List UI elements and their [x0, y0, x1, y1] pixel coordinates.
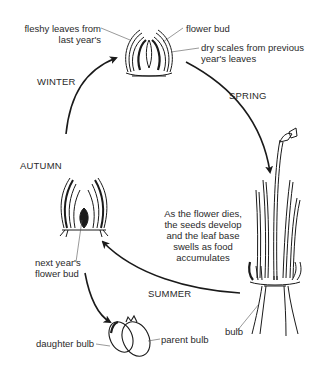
- parent-bulb-shape: [117, 317, 156, 361]
- daughter-bulb-shape: [104, 318, 137, 356]
- arrow-winter: [66, 58, 116, 134]
- label-fleshy-leaves-line1: fleshy leaves from: [16, 23, 101, 34]
- label-fleshy-leaves-line2: last year's: [16, 34, 101, 45]
- season-summer: SUMMER: [148, 288, 191, 299]
- next-bud-line1: next year's: [35, 257, 81, 268]
- summer-note-line2: the seeds develop: [160, 219, 246, 230]
- season-spring: SPRING: [229, 90, 267, 101]
- summer-note-line5: accumulates: [160, 252, 246, 263]
- flowering-plant-illustration: [249, 128, 301, 336]
- label-daughter-bulb: daughter bulb: [36, 338, 94, 349]
- summer-note-line1: As the flower dies,: [160, 208, 246, 219]
- label-fleshy-leaves: fleshy leaves from last year's: [16, 23, 101, 45]
- summer-note-line4: swells as food: [160, 241, 246, 252]
- arrow-autumn: [85, 273, 110, 322]
- season-autumn: AUTUMN: [20, 160, 62, 171]
- label-bulb: bulb: [225, 326, 243, 337]
- dividing-bulbs-illustration: [104, 316, 155, 361]
- summer-note-line3: and the leaf base: [160, 230, 246, 241]
- label-next-years-bud: next year's flower bud: [35, 257, 81, 279]
- autumn-bulb-illustration: [60, 178, 108, 237]
- next-bud-line2: flower bud: [35, 268, 81, 279]
- arrow-spring: [186, 62, 270, 172]
- label-summer-note: As the flower dies, the seeds develop an…: [160, 208, 246, 263]
- label-dry-scales: dry scales from previous year's leaves: [201, 42, 304, 64]
- season-winter: WINTER: [37, 76, 76, 87]
- label-dry-scales-line1: dry scales from previous: [201, 42, 304, 53]
- label-flower-bud: flower bud: [186, 23, 230, 34]
- winter-bud-illustration: [126, 30, 173, 76]
- label-dry-scales-line2: year's leaves: [201, 53, 304, 64]
- label-parent-bulb: parent bulb: [161, 334, 209, 345]
